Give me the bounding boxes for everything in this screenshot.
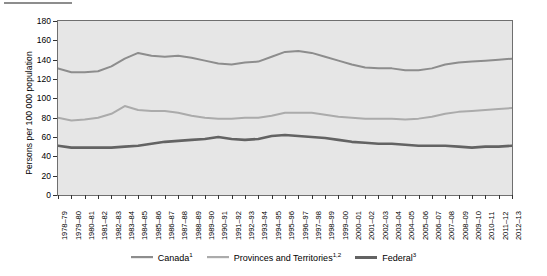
y-tick-label: 20	[25, 172, 51, 180]
y-tick-label: 180	[25, 17, 51, 25]
x-tick-label: 1982–83	[115, 211, 123, 240]
x-tick-mark	[138, 195, 139, 199]
x-tick-label: 1979–80	[75, 211, 83, 240]
x-tick-label: 1994–95	[275, 211, 283, 240]
x-tick-mark	[232, 195, 233, 199]
legend-label: Provinces and Territories1,2	[234, 251, 342, 263]
x-tick-mark	[405, 195, 406, 199]
legend-item[interactable]: Federal3	[355, 251, 416, 263]
plot-area	[57, 20, 513, 196]
x-tick-label: 1988–89	[195, 211, 203, 240]
legend-swatch-icon	[207, 255, 229, 259]
x-tick-mark	[432, 195, 433, 199]
y-tick-label: 80	[25, 114, 51, 122]
x-tick-label: 1990–91	[221, 211, 229, 240]
x-tick-mark	[445, 195, 446, 199]
legend-label: Federal3	[382, 251, 416, 263]
x-tick-mark	[485, 195, 486, 199]
x-tick-label: 1989–90	[208, 211, 216, 240]
x-tick-mark	[98, 195, 99, 199]
top-rule-decoration	[4, 2, 72, 4]
x-tick-label: 1997–98	[315, 211, 323, 240]
x-tick-mark	[165, 195, 166, 199]
y-tick-label: 160	[25, 36, 51, 44]
x-tick-mark	[392, 195, 393, 199]
x-tick-label: 2012–13	[515, 211, 523, 240]
x-tick-label: 1996–97	[302, 211, 310, 240]
x-tick-label: 1991–92	[235, 211, 243, 240]
series-line	[58, 106, 512, 121]
x-tick-mark	[298, 195, 299, 199]
x-tick-mark	[151, 195, 152, 199]
x-tick-label: 1980–81	[88, 211, 96, 240]
y-tick-label: 40	[25, 152, 51, 160]
x-tick-label: 1995–96	[288, 211, 296, 240]
y-tick-label: 0	[25, 191, 51, 199]
x-tick-mark	[178, 195, 179, 199]
x-tick-label: 1978–79	[61, 211, 69, 240]
x-tick-label: 2007–08	[448, 211, 456, 240]
legend-swatch-icon	[355, 255, 377, 260]
chart-legend: Canada1Provinces and Territories1,2Feder…	[0, 251, 547, 263]
x-tick-mark	[85, 195, 86, 199]
y-tick-label: 120	[25, 75, 51, 83]
x-tick-mark	[245, 195, 246, 199]
x-tick-mark	[111, 195, 112, 199]
x-tick-mark	[58, 195, 59, 199]
x-tick-mark	[512, 195, 513, 199]
legend-item[interactable]: Canada1	[131, 251, 193, 263]
x-tick-label: 1998–99	[328, 211, 336, 240]
x-tick-label: 2005–06	[422, 211, 430, 240]
x-tick-label: 1992–93	[248, 211, 256, 240]
x-tick-mark	[71, 195, 72, 199]
legend-swatch-icon	[131, 255, 153, 259]
x-tick-label: 2000–01	[355, 211, 363, 240]
x-tick-mark	[325, 195, 326, 199]
x-tick-label: 1985–86	[155, 211, 163, 240]
y-tick-label: 140	[25, 56, 51, 64]
y-tick-label: 60	[25, 133, 51, 141]
x-tick-mark	[419, 195, 420, 199]
series-line	[58, 51, 512, 72]
x-tick-label: 1987–88	[181, 211, 189, 240]
x-tick-mark	[352, 195, 353, 199]
x-tick-mark	[205, 195, 206, 199]
x-tick-label: 1999–00	[342, 211, 350, 240]
x-tick-label: 1981–82	[101, 211, 109, 240]
x-tick-label: 1986–87	[168, 211, 176, 240]
x-tick-mark	[338, 195, 339, 199]
y-tick-label: 100	[25, 94, 51, 102]
x-tick-mark	[192, 195, 193, 199]
x-tick-mark	[472, 195, 473, 199]
x-tick-mark	[378, 195, 379, 199]
x-tick-mark	[459, 195, 460, 199]
x-tick-label: 2002–03	[382, 211, 390, 240]
x-tick-label: 2009–10	[475, 211, 483, 240]
x-tick-mark	[258, 195, 259, 199]
x-tick-label: 2011–12	[502, 212, 510, 240]
x-tick-label: 2006–07	[435, 211, 443, 240]
x-tick-mark	[499, 195, 500, 199]
legend-item[interactable]: Provinces and Territories1,2	[207, 251, 342, 263]
legend-label: Canada1	[158, 251, 193, 263]
x-tick-mark	[125, 195, 126, 199]
x-tick-label: 2010–11	[488, 212, 496, 240]
x-tick-label: 1993–94	[261, 211, 269, 240]
chart-figure: Persons per 100 000 population 020406080…	[0, 0, 547, 276]
x-tick-label: 2008–09	[462, 211, 470, 240]
series-line	[58, 135, 512, 148]
x-tick-label: 2004–05	[408, 211, 416, 240]
x-tick-label: 2003–04	[395, 211, 403, 240]
x-tick-label: 1983–84	[128, 211, 136, 240]
x-tick-mark	[272, 195, 273, 199]
series-lines	[58, 21, 512, 195]
x-tick-mark	[218, 195, 219, 199]
x-tick-mark	[312, 195, 313, 199]
x-tick-label: 2001–02	[368, 211, 376, 240]
x-tick-mark	[365, 195, 366, 199]
x-tick-mark	[285, 195, 286, 199]
x-tick-label: 1984–85	[141, 211, 149, 240]
